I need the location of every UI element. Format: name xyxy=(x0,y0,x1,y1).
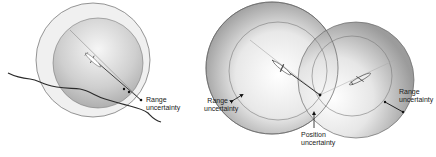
position-uncertainty-label: Position uncertainty xyxy=(301,131,335,147)
two-sensor-figure xyxy=(206,2,414,138)
range-uncertainty-label: Range uncertainty xyxy=(146,96,180,112)
single-sensor-figure xyxy=(8,3,161,122)
range-uncertainty-right-label: Range uncertainty xyxy=(399,88,433,104)
range-uncertainty-left-label: Range uncertainty xyxy=(204,97,230,113)
diagram-canvas xyxy=(0,0,436,157)
